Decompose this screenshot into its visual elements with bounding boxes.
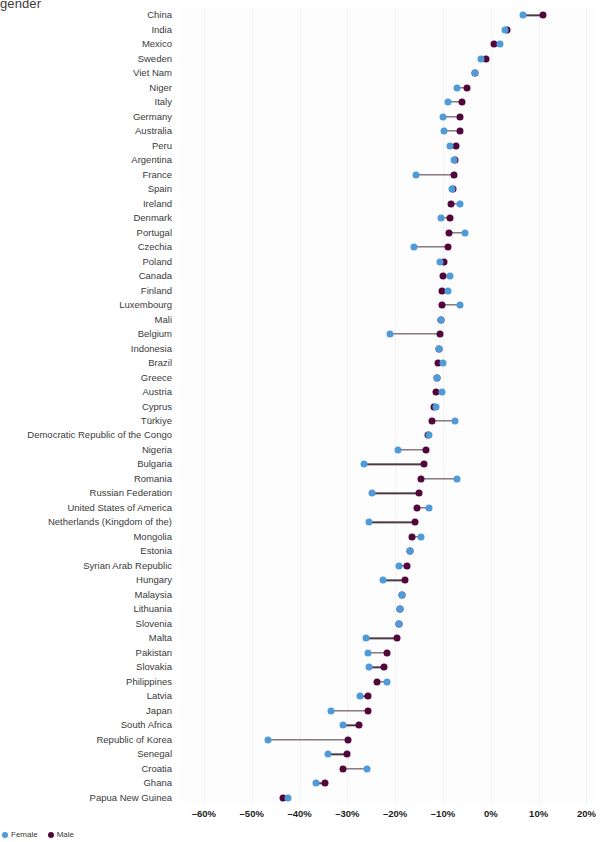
category-label: Hungary <box>136 575 172 585</box>
data-point-female[interactable] <box>446 273 453 280</box>
category-label: Portugal <box>137 228 172 238</box>
data-point-male[interactable] <box>451 171 458 178</box>
data-point-female[interactable] <box>457 302 464 309</box>
data-point-female[interactable] <box>397 606 404 613</box>
data-point-female[interactable] <box>439 389 446 396</box>
data-point-female[interactable] <box>327 707 334 714</box>
data-point-female[interactable] <box>451 417 458 424</box>
data-point-male[interactable] <box>383 649 390 656</box>
data-point-female[interactable] <box>445 287 452 294</box>
data-point-female[interactable] <box>407 548 414 555</box>
data-point-female[interactable] <box>361 461 368 468</box>
x-tick-label: –30% <box>335 808 359 819</box>
data-point-male[interactable] <box>412 519 419 526</box>
data-point-male[interactable] <box>438 302 445 309</box>
data-point-female[interactable] <box>379 577 386 584</box>
data-point-female[interactable] <box>394 446 401 453</box>
data-point-male[interactable] <box>457 128 464 135</box>
data-point-male[interactable] <box>364 707 371 714</box>
data-point-female[interactable] <box>395 620 402 627</box>
data-point-male[interactable] <box>365 693 372 700</box>
data-point-male[interactable] <box>416 490 423 497</box>
category-label: Ireland <box>143 199 172 209</box>
data-point-female[interactable] <box>418 533 425 540</box>
data-point-female[interactable] <box>437 258 444 265</box>
legend-item[interactable]: Female <box>2 830 38 839</box>
data-point-female[interactable] <box>451 157 458 164</box>
data-point-male[interactable] <box>414 504 421 511</box>
data-point-male[interactable] <box>540 12 547 19</box>
data-point-male[interactable] <box>345 736 352 743</box>
data-point-female[interactable] <box>369 490 376 497</box>
data-point-female[interactable] <box>441 128 448 135</box>
data-point-male[interactable] <box>437 331 444 338</box>
data-point-female[interactable] <box>519 12 526 19</box>
data-point-male[interactable] <box>445 229 452 236</box>
data-point-male[interactable] <box>463 84 470 91</box>
data-point-female[interactable] <box>425 504 432 511</box>
data-point-female[interactable] <box>437 316 444 323</box>
data-point-female[interactable] <box>437 215 444 222</box>
data-point-female[interactable] <box>363 635 370 642</box>
data-point-male[interactable] <box>444 244 451 251</box>
data-point-female[interactable] <box>395 562 402 569</box>
data-point-female[interactable] <box>366 519 373 526</box>
data-point-male[interactable] <box>339 765 346 772</box>
data-point-female[interactable] <box>363 765 370 772</box>
data-point-female[interactable] <box>387 331 394 338</box>
connector-line <box>369 522 415 523</box>
data-point-female[interactable] <box>365 649 372 656</box>
data-point-female[interactable] <box>284 794 291 801</box>
data-point-female[interactable] <box>471 70 478 77</box>
data-point-female[interactable] <box>325 751 332 758</box>
data-point-female[interactable] <box>365 664 372 671</box>
gridline-0 <box>491 8 492 805</box>
data-point-female[interactable] <box>313 780 320 787</box>
data-point-female[interactable] <box>413 171 420 178</box>
data-point-male[interactable] <box>356 722 363 729</box>
data-point-female[interactable] <box>497 41 504 48</box>
data-point-male[interactable] <box>403 562 410 569</box>
data-point-male[interactable] <box>447 215 454 222</box>
data-point-female[interactable] <box>439 113 446 120</box>
data-point-female[interactable] <box>461 229 468 236</box>
data-point-female[interactable] <box>448 186 455 193</box>
data-point-female[interactable] <box>454 84 461 91</box>
category-label: Canada <box>139 271 172 281</box>
data-point-male[interactable] <box>380 664 387 671</box>
data-point-female[interactable] <box>433 403 440 410</box>
data-point-male[interactable] <box>401 577 408 584</box>
data-point-female[interactable] <box>502 26 509 33</box>
data-point-female[interactable] <box>478 55 485 62</box>
data-point-female[interactable] <box>383 678 390 685</box>
data-point-male[interactable] <box>409 533 416 540</box>
data-point-female[interactable] <box>356 693 363 700</box>
data-point-female[interactable] <box>439 360 446 367</box>
data-point-female[interactable] <box>411 244 418 251</box>
data-point-male[interactable] <box>457 113 464 120</box>
data-point-female[interactable] <box>399 591 406 598</box>
data-point-female[interactable] <box>446 142 453 149</box>
data-point-female[interactable] <box>339 722 346 729</box>
x-tick-label: 20% <box>577 808 596 819</box>
data-point-male[interactable] <box>344 751 351 758</box>
data-point-male[interactable] <box>448 200 455 207</box>
data-point-male[interactable] <box>418 475 425 482</box>
data-point-female[interactable] <box>456 200 463 207</box>
data-point-male[interactable] <box>453 142 460 149</box>
data-point-female[interactable] <box>454 475 461 482</box>
data-point-male[interactable] <box>422 446 429 453</box>
data-point-male[interactable] <box>459 99 466 106</box>
data-point-male[interactable] <box>428 417 435 424</box>
legend-item[interactable]: Male <box>48 830 74 839</box>
data-point-female[interactable] <box>434 374 441 381</box>
data-point-male[interactable] <box>374 678 381 685</box>
data-point-male[interactable] <box>420 461 427 468</box>
data-point-female[interactable] <box>444 99 451 106</box>
data-point-male[interactable] <box>394 635 401 642</box>
data-point-female[interactable] <box>265 736 272 743</box>
x-tick-label: –20% <box>383 808 407 819</box>
data-point-female[interactable] <box>425 432 432 439</box>
data-point-female[interactable] <box>436 345 443 352</box>
data-point-male[interactable] <box>321 780 328 787</box>
